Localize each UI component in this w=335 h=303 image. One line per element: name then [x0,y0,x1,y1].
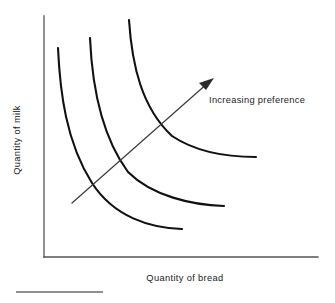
y-axis-label: Quantity of milk [12,105,22,175]
x-axis-label: Quantity of bread [146,273,223,283]
chart-canvas: Increasing preference Quantity of milk Q… [0,0,335,303]
indifference-curves-figure: Increasing preference Quantity of milk Q… [0,0,335,303]
indifference-curve-2 [90,38,224,206]
increasing-preference-label: Increasing preference [209,95,305,105]
increasing-preference-arrow-shaft [72,82,209,203]
indifference-curve-1 [58,48,182,229]
